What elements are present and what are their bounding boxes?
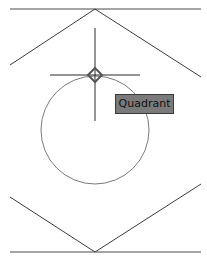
- bottom-left-diagonal-line: [10, 197, 95, 252]
- bottom-right-diagonal-line: [95, 184, 201, 252]
- drawing-canvas[interactable]: [0, 0, 207, 260]
- top-right-diagonal-line: [95, 9, 201, 77]
- top-left-diagonal-line: [10, 9, 95, 65]
- osnap-tooltip: Quadrant: [115, 94, 174, 114]
